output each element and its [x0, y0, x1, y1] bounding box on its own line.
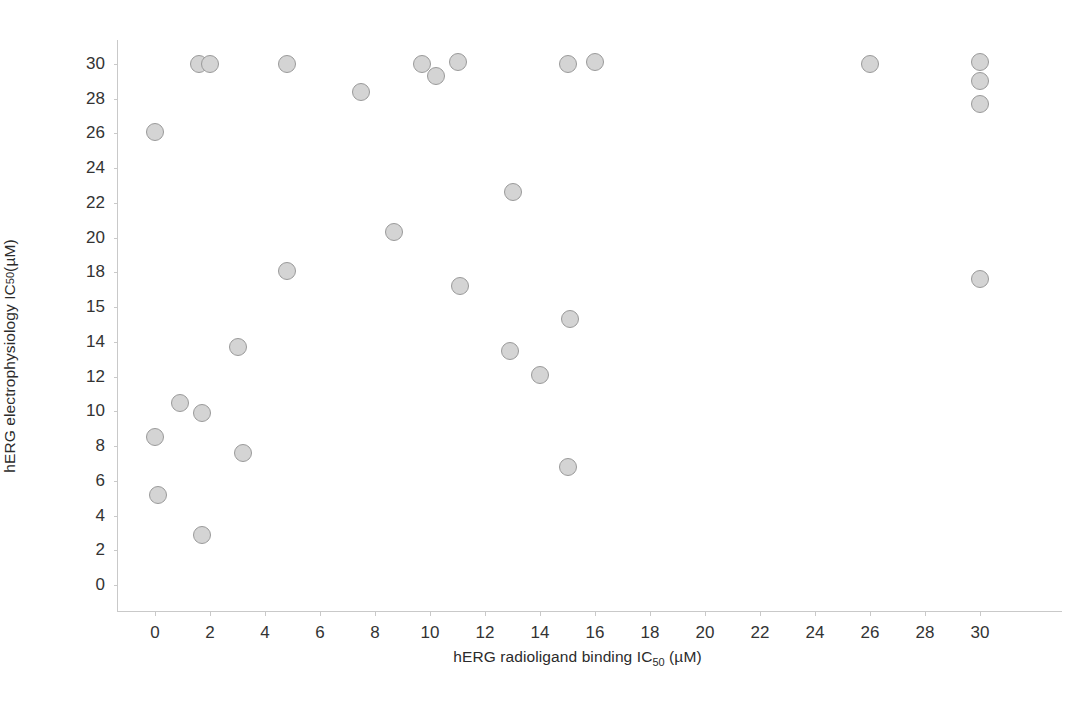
x-tick-label: 6 [300, 622, 340, 643]
data-point [971, 95, 989, 113]
plot-area: 024681012141518202224262830 024681012141… [117, 40, 1062, 612]
x-tick-label: 0 [135, 622, 175, 643]
x-tick-label: 22 [740, 622, 780, 643]
y-tick-label: 8 [96, 435, 105, 456]
data-point [149, 486, 167, 504]
data-point [451, 277, 469, 295]
data-point [586, 53, 604, 71]
y-tick: 26 [114, 133, 118, 134]
data-point [559, 55, 577, 73]
x-tick [650, 611, 651, 616]
data-point [531, 366, 549, 384]
y-axis-line [117, 40, 118, 612]
x-tick-label: 8 [355, 622, 395, 643]
y-tick: 10 [114, 411, 118, 412]
y-axis-title: hERG electrophysiology IC50 (µM) [0, 0, 60, 712]
data-point [971, 53, 989, 71]
x-tick [320, 611, 321, 616]
data-point [146, 428, 164, 446]
y-tick-label: 24 [86, 157, 105, 178]
x-tick-label: 30 [960, 622, 1000, 643]
data-point [278, 262, 296, 280]
x-tick-label: 14 [520, 622, 560, 643]
data-point [193, 404, 211, 422]
x-axis-line [117, 611, 1062, 612]
data-point [193, 526, 211, 544]
data-point [501, 342, 519, 360]
y-tick-label: 14 [86, 331, 105, 352]
data-point [278, 55, 296, 73]
data-point [352, 83, 370, 101]
x-tick-label: 18 [630, 622, 670, 643]
data-point [201, 55, 219, 73]
y-tick: 15 [114, 307, 118, 308]
x-tick-label: 2 [190, 622, 230, 643]
scatter-plot-figure: hERG electrophysiology IC50 (µM) hERG ra… [0, 0, 1087, 712]
x-tick [595, 611, 596, 616]
data-point [559, 458, 577, 476]
x-tick-label: 24 [795, 622, 835, 643]
y-tick: 0 [114, 585, 118, 586]
x-tick [870, 611, 871, 616]
x-axis-title: hERG radioligand binding IC50 (µM) [155, 648, 1000, 668]
data-point [449, 53, 467, 71]
x-tick-label: 20 [685, 622, 725, 643]
x-tick-label: 4 [245, 622, 285, 643]
x-tick [155, 611, 156, 616]
x-tick-label: 12 [465, 622, 505, 643]
x-tick [485, 611, 486, 616]
y-tick-label: 12 [86, 366, 105, 387]
data-point [427, 67, 445, 85]
y-tick: 24 [114, 168, 118, 169]
y-tick-label: 2 [96, 539, 105, 560]
x-tick-label: 10 [410, 622, 450, 643]
data-point [971, 270, 989, 288]
y-tick-label: 6 [96, 470, 105, 491]
x-tick-label: 26 [850, 622, 890, 643]
y-tick-label: 10 [86, 400, 105, 421]
x-tick [760, 611, 761, 616]
y-tick: 12 [114, 377, 118, 378]
y-tick-label: 22 [86, 192, 105, 213]
y-tick: 14 [114, 342, 118, 343]
x-axis-title-post: (µM) [665, 648, 702, 665]
data-point [861, 55, 879, 73]
x-tick [540, 611, 541, 616]
y-axis-title-subscript: 50 [4, 272, 16, 284]
y-tick-label: 0 [96, 574, 105, 595]
y-tick-label: 20 [86, 227, 105, 248]
y-tick: 6 [114, 481, 118, 482]
y-tick: 8 [114, 446, 118, 447]
x-axis-title-pre: hERG radioligand binding IC [453, 648, 652, 665]
x-tick-label: 16 [575, 622, 615, 643]
y-tick: 2 [114, 550, 118, 551]
y-tick-label: 18 [86, 261, 105, 282]
data-point [229, 338, 247, 356]
data-point [971, 72, 989, 90]
x-tick [375, 611, 376, 616]
data-point [171, 394, 189, 412]
data-point [385, 223, 403, 241]
y-tick: 28 [114, 99, 118, 100]
x-axis-title-subscript: 50 [652, 656, 664, 668]
y-tick: 18 [114, 272, 118, 273]
data-point [146, 123, 164, 141]
x-tick-label: 28 [905, 622, 945, 643]
x-tick [430, 611, 431, 616]
x-tick [210, 611, 211, 616]
x-tick [925, 611, 926, 616]
y-tick: 4 [114, 516, 118, 517]
x-tick [705, 611, 706, 616]
data-point [561, 310, 579, 328]
y-tick-label: 30 [86, 53, 105, 74]
y-tick: 20 [114, 238, 118, 239]
y-axis-title-post: (µM) [1, 239, 19, 272]
y-axis-title-pre: hERG electrophysiology IC [1, 284, 19, 473]
y-tick-label: 4 [96, 505, 105, 526]
data-point [234, 444, 252, 462]
x-tick [815, 611, 816, 616]
y-tick: 22 [114, 203, 118, 204]
y-tick: 30 [114, 64, 118, 65]
data-point [504, 183, 522, 201]
y-tick-label: 28 [86, 88, 105, 109]
